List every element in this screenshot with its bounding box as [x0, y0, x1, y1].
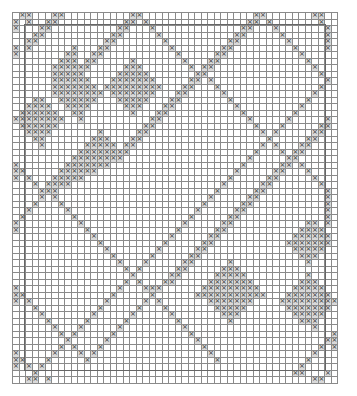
empty-cell	[332, 377, 339, 384]
grid-row	[13, 377, 338, 384]
stitch-chart-grid	[12, 12, 338, 384]
